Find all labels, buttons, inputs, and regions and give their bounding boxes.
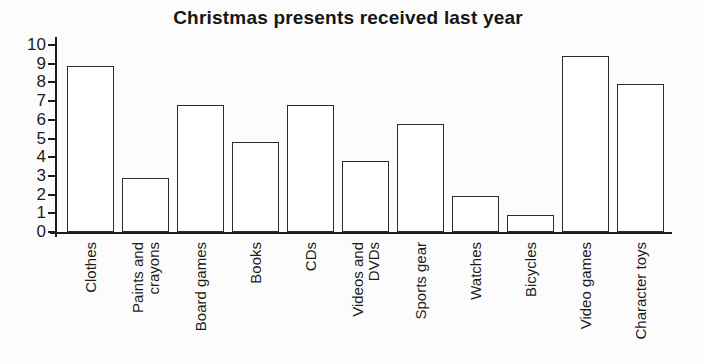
y-tick-label: 1 xyxy=(14,204,46,222)
y-tick-label: 8 xyxy=(14,73,46,91)
y-tick-label: 6 xyxy=(14,111,46,129)
x-axis-label-sports-gear: Sports gear xyxy=(413,242,429,352)
y-tick-mark xyxy=(48,212,56,214)
y-tick-mark xyxy=(48,119,56,121)
x-axis-label-character-toys: Character toys xyxy=(633,242,649,352)
y-tick-mark xyxy=(48,156,56,158)
y-tick-mark xyxy=(48,63,56,65)
y-tick-mark xyxy=(48,231,56,233)
bar-cds xyxy=(287,105,334,232)
y-tick-label: 9 xyxy=(14,55,46,73)
y-tick-mark xyxy=(48,194,56,196)
y-tick-label: 10 xyxy=(14,36,46,54)
x-axis-label-video-games: Video games xyxy=(578,242,594,352)
bar-video-games xyxy=(562,56,609,232)
y-tick-label: 5 xyxy=(14,130,46,148)
x-axis-label-bicycles: Bicycles xyxy=(523,242,539,352)
y-tick-mark xyxy=(48,138,56,140)
bar-clothes xyxy=(67,66,114,232)
y-tick-mark xyxy=(48,44,56,46)
bar-videos-and-dvds xyxy=(342,161,389,232)
bar-books xyxy=(232,142,279,232)
y-tick-mark xyxy=(48,100,56,102)
y-tick-label: 0 xyxy=(14,223,46,241)
bar-character-toys xyxy=(617,84,664,232)
y-tick-mark xyxy=(48,175,56,177)
x-axis-label-cds: CDs xyxy=(303,242,319,352)
y-tick-mark xyxy=(48,81,56,83)
bar-bicycles xyxy=(507,215,554,232)
y-tick-label: 7 xyxy=(14,92,46,110)
x-axis-label-books: Books xyxy=(248,242,264,352)
bar-board-games xyxy=(177,105,224,232)
plot-area: 012345678910ClothesPaints and crayonsBoa… xyxy=(0,0,704,364)
bar-watches xyxy=(452,196,499,232)
bar-paints-and-crayons xyxy=(122,178,169,232)
x-axis-label-watches: Watches xyxy=(468,242,484,352)
scanned-chart-page: Christmas presents received last year 01… xyxy=(0,0,704,364)
bar-sports-gear xyxy=(397,124,444,232)
y-tick-label: 4 xyxy=(14,148,46,166)
x-axis-line xyxy=(50,232,672,234)
x-axis-label-paints-and-crayons: Paints and crayons xyxy=(130,242,162,352)
x-axis-label-clothes: Clothes xyxy=(83,242,99,352)
x-axis-label-board-games: Board games xyxy=(193,242,209,352)
y-tick-label: 2 xyxy=(14,186,46,204)
x-axis-label-videos-and-dvds: Videos and DVDs xyxy=(350,242,382,352)
y-tick-label: 3 xyxy=(14,167,46,185)
